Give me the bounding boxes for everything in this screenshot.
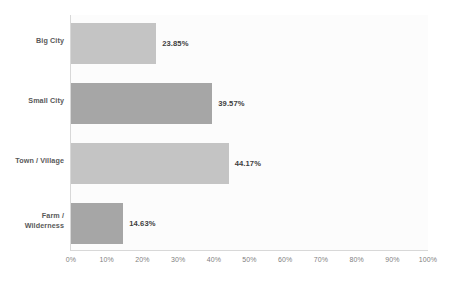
x-tick-label: 60% [278,256,292,263]
category-label-town-village: Town / Village [2,156,64,166]
category-label-line: Wilderness [2,221,64,231]
x-tick-label: 0% [66,256,76,263]
x-axis-tick-labels: 0% 10% 20% 30% 40% 50% 60% 70% 80% 90% 1… [0,256,452,270]
category-label-line: Town / Village [2,156,64,166]
bar-value-farm-wilderness: 14.63% [129,219,155,228]
x-axis-line [70,250,428,251]
bar-value-big-city: 23.85% [162,39,188,48]
bar-value-town-village: 44.17% [235,159,261,168]
category-label-farm-wilderness: Farm / Wilderness [2,211,64,230]
category-label-line: Farm / [2,211,64,221]
x-tick-label: 50% [242,256,256,263]
x-tick-label: 70% [314,256,328,263]
category-label-line: Big City [2,36,64,46]
bar-small-city[interactable] [71,83,212,124]
category-label-big-city: Big City [2,36,64,46]
x-tick-label: 30% [171,256,185,263]
bar-big-city[interactable] [71,23,156,64]
bar-farm-wilderness[interactable] [71,203,123,244]
x-tick-label: 80% [349,256,363,263]
x-tick-label: 90% [385,256,399,263]
x-tick-label: 40% [207,256,221,263]
x-tick-label: 20% [135,256,149,263]
x-tick-label: 10% [100,256,114,263]
bar-value-small-city: 39.57% [218,99,244,108]
category-label-small-city: Small City [2,96,64,106]
category-label-line: Small City [2,96,64,106]
x-tick-label: 100% [419,256,437,263]
bar-town-village[interactable] [71,143,229,184]
bar-chart: Big City 23.85% Small City 39.57% Town /… [0,0,452,282]
